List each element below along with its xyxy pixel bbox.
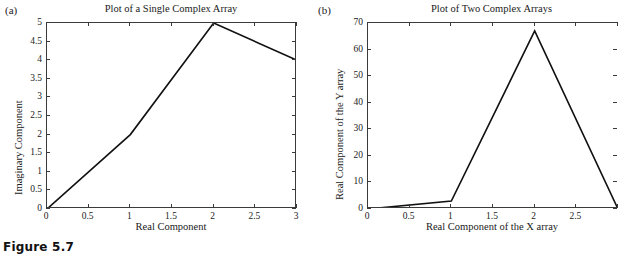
- y-tick-mark: [46, 59, 50, 60]
- x-axis-title-b: Real Component of the X array: [367, 221, 617, 232]
- y-tick-mark-right: [292, 78, 296, 79]
- x-tick-label: 1: [127, 211, 132, 221]
- chart-panel-b: (b) Plot of Two Complex Arrays 00.511.52…: [308, 0, 616, 232]
- plot-area-b: [367, 22, 617, 208]
- y-tick-mark: [46, 22, 50, 23]
- x-tick-mark: [492, 204, 493, 208]
- y-tick-mark-right: [292, 22, 296, 23]
- x-tick-mark-top: [409, 22, 410, 26]
- y-tick-mark-right: [292, 189, 296, 190]
- y-tick-label: 0: [337, 203, 363, 213]
- data-line-b: [368, 31, 617, 207]
- y-tick-mark: [46, 152, 50, 153]
- y-tick-mark: [46, 171, 50, 172]
- data-line-b-svg: [368, 23, 617, 207]
- y-tick-label: 4: [16, 54, 42, 64]
- panel-letter-a: (a): [5, 4, 17, 16]
- x-tick-label: 2: [531, 211, 536, 221]
- y-tick-label: 4.5: [16, 36, 42, 46]
- y-tick-mark-right: [292, 41, 296, 42]
- y-tick-mark: [367, 208, 371, 209]
- x-tick-mark-top: [575, 22, 576, 26]
- x-tick-label: 0: [365, 211, 370, 221]
- x-tick-mark: [88, 204, 89, 208]
- x-tick-mark: [254, 204, 255, 208]
- x-tick-mark-top: [254, 22, 255, 26]
- y-tick-mark-right: [613, 22, 617, 23]
- x-tick-mark-top: [213, 22, 214, 26]
- y-tick-mark-right: [292, 208, 296, 209]
- x-tick-label: 2.5: [248, 211, 260, 221]
- y-tick-label: 5: [16, 17, 42, 27]
- x-tick-label: 3: [294, 211, 299, 221]
- y-tick-label: 0: [16, 203, 42, 213]
- x-tick-mark-top: [492, 22, 493, 26]
- y-tick-mark: [46, 41, 50, 42]
- y-tick-mark: [367, 75, 371, 76]
- x-tick-mark: [171, 204, 172, 208]
- y-tick-mark-right: [613, 75, 617, 76]
- data-line-a-svg: [47, 23, 295, 207]
- x-tick-mark-top: [296, 22, 297, 26]
- x-tick-mark-top: [171, 22, 172, 26]
- x-tick-mark-top: [88, 22, 89, 26]
- y-tick-mark-right: [292, 59, 296, 60]
- y-tick-mark: [46, 134, 50, 135]
- y-tick-mark: [46, 189, 50, 190]
- y-tick-mark: [46, 96, 50, 97]
- y-tick-mark-right: [292, 171, 296, 172]
- y-tick-mark-right: [613, 208, 617, 209]
- y-tick-mark: [367, 128, 371, 129]
- y-tick-mark-right: [613, 181, 617, 182]
- y-tick-mark: [367, 22, 371, 23]
- data-line-a: [47, 23, 295, 207]
- y-axis-title-a: Imaginary Component: [13, 100, 24, 195]
- x-tick-label: 0.5: [403, 211, 415, 221]
- x-tick-label: 1.5: [486, 211, 498, 221]
- x-tick-label: 1.5: [165, 211, 177, 221]
- x-tick-mark: [575, 204, 576, 208]
- y-tick-mark-right: [613, 102, 617, 103]
- y-tick-mark-right: [292, 134, 296, 135]
- x-tick-mark-top: [129, 22, 130, 26]
- y-tick-mark: [367, 155, 371, 156]
- plot-clip-a: [47, 23, 295, 207]
- y-tick-mark: [46, 115, 50, 116]
- y-tick-mark-right: [292, 152, 296, 153]
- x-tick-mark-top: [450, 22, 451, 26]
- x-tick-label: 0.5: [82, 211, 94, 221]
- y-tick-mark-right: [613, 155, 617, 156]
- y-tick-mark: [367, 181, 371, 182]
- y-tick-mark: [367, 49, 371, 50]
- y-tick-mark-right: [292, 115, 296, 116]
- x-tick-mark: [409, 204, 410, 208]
- x-tick-label: 2: [210, 211, 215, 221]
- y-tick-mark-right: [292, 96, 296, 97]
- x-tick-mark: [534, 204, 535, 208]
- chart-panel-a: (a) Plot of a Single Complex Array 00.51…: [0, 0, 308, 232]
- x-tick-mark-top: [534, 22, 535, 26]
- x-tick-mark: [296, 204, 297, 208]
- figure-caption: Figure 5.7: [3, 240, 74, 254]
- panel-letter-b: (b): [318, 4, 331, 16]
- x-tick-mark: [129, 204, 130, 208]
- x-tick-label: 1: [448, 211, 453, 221]
- y-tick-mark-right: [613, 128, 617, 129]
- x-tick-mark: [450, 204, 451, 208]
- chart-title-a: Plot of a Single Complex Array: [46, 3, 296, 14]
- y-tick-label: 70: [337, 17, 363, 27]
- y-tick-mark-right: [613, 49, 617, 50]
- y-tick-label: 3.5: [16, 73, 42, 83]
- chart-title-b: Plot of Two Complex Arrays: [367, 3, 616, 14]
- x-tick-label: 2.5: [569, 211, 581, 221]
- y-axis-title-b: Real Component of the Y array: [334, 69, 345, 200]
- plot-clip-b: [368, 23, 617, 207]
- plot-area-a: [46, 22, 296, 208]
- y-tick-mark: [46, 208, 50, 209]
- y-tick-label: 60: [337, 44, 363, 54]
- x-tick-label: 0: [44, 211, 49, 221]
- y-tick-mark: [367, 102, 371, 103]
- x-tick-mark: [213, 204, 214, 208]
- y-tick-mark: [46, 78, 50, 79]
